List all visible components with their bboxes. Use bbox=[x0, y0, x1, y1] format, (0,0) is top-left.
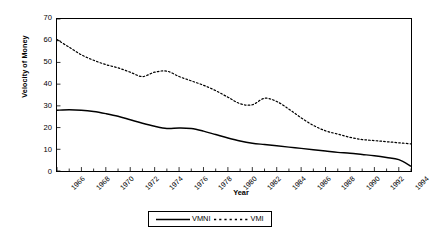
plot-svg bbox=[57, 19, 411, 171]
y-tick-label: 70 bbox=[30, 14, 52, 22]
legend-swatch-solid-icon bbox=[156, 216, 190, 223]
legend-label-vmni: VMNI bbox=[192, 215, 210, 223]
legend-label-vmi: VMI bbox=[250, 215, 263, 223]
y-tick-label: 20 bbox=[30, 124, 52, 132]
tick-marks-group bbox=[57, 19, 411, 171]
y-tick-label: 60 bbox=[30, 36, 52, 44]
y-tick-label: 10 bbox=[30, 146, 52, 154]
chart-legend: VMNI VMI bbox=[148, 211, 272, 227]
y-tick-label: 0 bbox=[30, 168, 52, 176]
y-tick-label: 50 bbox=[30, 58, 52, 66]
legend-entry-vmi: VMI bbox=[214, 215, 263, 223]
chart-figure: Velocity of Money 010203040506070 196619… bbox=[0, 0, 440, 236]
y-tick-label: 30 bbox=[30, 102, 52, 110]
legend-entry-vmni: VMNI bbox=[156, 215, 210, 223]
series-line-vmi bbox=[57, 40, 411, 144]
legend-swatch-dotted-icon bbox=[214, 216, 248, 223]
y-tick-label: 40 bbox=[30, 80, 52, 88]
x-axis-label-wrap: Year bbox=[0, 188, 440, 197]
series-line-vmni bbox=[57, 110, 411, 166]
x-axis-label: Year bbox=[233, 188, 249, 197]
y-axis-tick-labels: 010203040506070 bbox=[28, 0, 52, 236]
plot-area bbox=[56, 18, 412, 172]
